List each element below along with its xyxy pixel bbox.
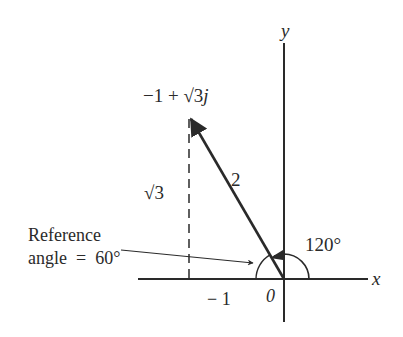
- reference-angle-label-line2: angle = 60°: [28, 248, 120, 268]
- reference-angle-arc: [256, 255, 270, 279]
- reference-angle-pointer-arrow: [121, 250, 253, 263]
- complex-point-label: −1 + √3j: [143, 85, 209, 106]
- tick-label-neg1: − 1: [207, 289, 231, 309]
- origin-label: 0: [266, 286, 275, 306]
- y-axis-label: y: [279, 20, 290, 41]
- complex-plane-diagram: y x 0 − 1 −1 + √3j 2 √3 120° Reference a…: [0, 0, 403, 337]
- angle-120-label: 120°: [305, 234, 341, 255]
- x-axis-label: x: [371, 268, 381, 289]
- height-sqrt3-label: √3: [144, 182, 164, 203]
- magnitude-label: 2: [231, 169, 241, 190]
- reference-angle-label-line1: Reference: [28, 225, 101, 245]
- complex-point-label-main: −1 + √3: [143, 85, 203, 106]
